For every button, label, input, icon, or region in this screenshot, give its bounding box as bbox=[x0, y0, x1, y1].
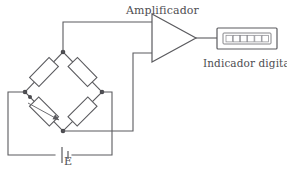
digit-cell-5 bbox=[255, 35, 261, 42]
source-label: E bbox=[64, 156, 72, 167]
digit-cell-1 bbox=[226, 35, 233, 42]
bridge-nodes bbox=[23, 50, 105, 134]
circuit-schematic-svg bbox=[0, 0, 287, 173]
resistor-bottom-left-strain-gauge bbox=[28, 97, 59, 126]
digital-indicator-label: Indicador digital bbox=[203, 58, 287, 69]
digit-cell-2 bbox=[233, 35, 240, 42]
resistor-bottom-right bbox=[68, 97, 97, 126]
resistor-top-left bbox=[30, 57, 59, 86]
amplifier-symbol bbox=[152, 14, 196, 62]
wire-top-node-to-amplifier bbox=[63, 22, 152, 52]
digit-cell-6 bbox=[262, 35, 269, 42]
bridge-arms bbox=[25, 52, 102, 131]
amplifier-triangle bbox=[152, 14, 196, 62]
node-gauge-tap bbox=[28, 95, 32, 99]
digit-cell-3 bbox=[240, 35, 247, 42]
resistor-top-right bbox=[68, 57, 97, 86]
digital-indicator-symbol bbox=[217, 28, 277, 49]
circuit-diagram: Amplificador Indicador digital E bbox=[0, 0, 287, 173]
digit-cell-4 bbox=[248, 35, 255, 42]
amplifier-label: Amplificador bbox=[126, 5, 199, 16]
